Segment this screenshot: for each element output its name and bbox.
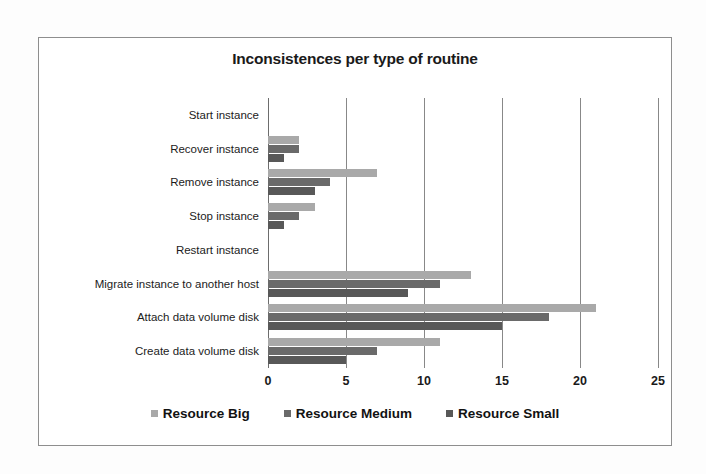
category-label: Recover instance	[170, 143, 259, 155]
x-tick-label-10: 10	[417, 374, 431, 388]
category-label: Attach data volume disk	[137, 311, 259, 323]
category-label: Stop instance	[189, 210, 259, 222]
bar-group	[268, 233, 658, 267]
bar-group	[268, 267, 658, 301]
bar-medium	[268, 313, 549, 321]
bar-group	[268, 98, 658, 132]
legend-item[interactable]: Resource Big	[151, 406, 250, 421]
x-tick-label-0: 0	[265, 374, 272, 388]
bar-small	[268, 356, 346, 364]
legend-label: Resource Big	[163, 406, 250, 421]
x-tick-label-5: 5	[343, 374, 350, 388]
x-tick-label-15: 15	[495, 374, 509, 388]
bar-group	[268, 301, 658, 335]
bar-group	[268, 132, 658, 166]
legend-swatch-icon	[446, 410, 453, 417]
x-tick-label-25: 25	[651, 374, 665, 388]
bar-group	[268, 166, 658, 200]
category-label: Migrate instance to another host	[95, 278, 259, 290]
bar-big	[268, 338, 440, 346]
bar-small	[268, 187, 315, 195]
x-tick-label-20: 20	[573, 374, 587, 388]
bar-big	[268, 203, 315, 211]
category-axis-labels: Start instanceRecover instanceRemove ins…	[39, 98, 265, 368]
chart-title: Inconsistences per type of routine	[39, 50, 671, 68]
legend-label: Resource Medium	[296, 406, 412, 421]
legend-item[interactable]: Resource Medium	[284, 406, 412, 421]
chart-legend: Resource BigResource MediumResource Smal…	[39, 406, 671, 421]
bar-medium	[268, 280, 440, 288]
chart-frame: Inconsistences per type of routine Start…	[38, 37, 672, 446]
bar-small	[268, 154, 284, 162]
value-axis-tick-labels: 0510152025	[268, 374, 658, 394]
bar-medium	[268, 212, 299, 220]
scanned-page: Inconsistences per type of routine Start…	[0, 0, 706, 474]
category-label: Start instance	[189, 109, 259, 121]
category-label: Create data volume disk	[135, 345, 259, 357]
bar-medium	[268, 347, 377, 355]
legend-swatch-icon	[151, 410, 158, 417]
plot-inner	[268, 98, 658, 368]
bar-small	[268, 289, 408, 297]
legend-swatch-icon	[284, 410, 291, 417]
bar-big	[268, 304, 596, 312]
bar-group	[268, 199, 658, 233]
bar-small	[268, 322, 502, 330]
bar-big	[268, 136, 299, 144]
plot-area	[268, 98, 658, 368]
legend-label: Resource Small	[458, 406, 559, 421]
gridline-25	[658, 98, 659, 368]
bar-medium	[268, 145, 299, 153]
bar-small	[268, 221, 284, 229]
bar-group	[268, 334, 658, 368]
legend-item[interactable]: Resource Small	[446, 406, 559, 421]
category-label: Restart instance	[176, 244, 259, 256]
bar-big	[268, 271, 471, 279]
bar-medium	[268, 178, 330, 186]
category-label: Remove instance	[170, 176, 259, 188]
bar-big	[268, 169, 377, 177]
